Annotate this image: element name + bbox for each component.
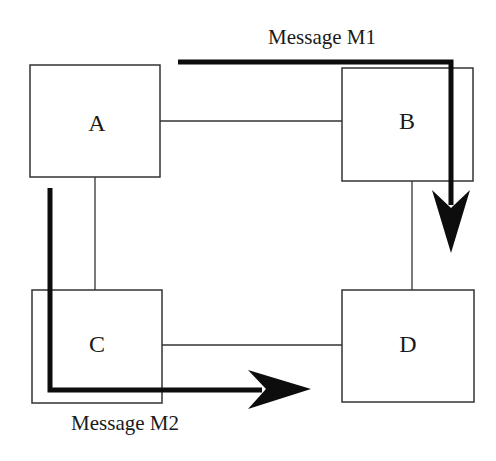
- node-d-label: D: [399, 331, 416, 357]
- network-diagram: A B C D Message M1 Message M2: [0, 0, 496, 461]
- node-a-label: A: [88, 110, 106, 136]
- node-b-label: B: [399, 108, 415, 134]
- node-c-label: C: [89, 331, 105, 357]
- message-m1-label: Message M1: [268, 25, 376, 49]
- message-m2-label: Message M2: [71, 411, 179, 435]
